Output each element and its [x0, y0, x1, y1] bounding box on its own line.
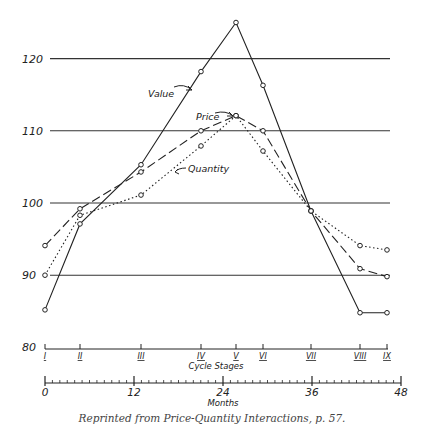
- data-point-price: [78, 206, 83, 211]
- y-label-120: 120: [22, 53, 43, 66]
- stage-label-III: III: [137, 352, 145, 361]
- data-point-value: [261, 83, 266, 88]
- cycle-stage-axis: IIIIIIIVVVIVIIVIIIIXCycle Stages: [44, 344, 392, 371]
- data-point-price: [199, 129, 204, 134]
- data-point-quantity: [139, 193, 144, 198]
- stage-label-IX: IX: [383, 352, 391, 361]
- data-point-price: [43, 243, 48, 248]
- stage-label-I: I: [44, 352, 47, 361]
- stage-label-VI: VI: [259, 352, 267, 361]
- data-point-quantity: [261, 149, 266, 154]
- price-quantity-value-chart: 8090100110120 IIIIIIIVVVIVIIVIIIIXCycle …: [0, 0, 424, 410]
- stage-label-V: V: [233, 352, 239, 361]
- y-label-100: 100: [22, 197, 43, 210]
- quantity-annotation: Quantity: [188, 163, 229, 174]
- figure-caption: Reprinted from Price-Quantity Interactio…: [0, 412, 424, 424]
- data-point-value: [234, 20, 239, 25]
- data-point-price: [385, 274, 390, 279]
- months-axis: 012243648Months: [42, 376, 408, 408]
- data-point-quantity: [358, 243, 363, 248]
- data-point-price: [358, 266, 363, 271]
- stage-label-II: II: [78, 352, 83, 361]
- month-label-12: 12: [127, 386, 141, 398]
- stage-label-VIII: VIII: [354, 352, 367, 361]
- data-point-value: [199, 69, 204, 74]
- data-point-quantity: [199, 144, 204, 149]
- data-point-quantity: [78, 213, 83, 218]
- y-label-90: 90: [22, 269, 36, 282]
- month-label-48: 48: [394, 386, 408, 398]
- data-point-quantity: [309, 209, 314, 214]
- series-line-quantity: [45, 116, 387, 276]
- series-line-price: [45, 116, 387, 277]
- stage-label-IV: IV: [197, 352, 205, 361]
- month-label-0: 0: [42, 386, 49, 398]
- data-point-quantity: [385, 248, 390, 253]
- month-label-24: 24: [216, 386, 229, 398]
- data-point-price: [139, 170, 144, 175]
- y-label-110: 110: [22, 125, 43, 138]
- stage-axis-title: Cycle Stages: [189, 361, 244, 371]
- data-point-quantity: [234, 113, 239, 118]
- data-point-value: [139, 162, 144, 167]
- stage-label-VII: VII: [306, 352, 317, 361]
- data-point-price: [261, 129, 266, 134]
- month-label-36: 36: [305, 386, 319, 398]
- data-point-quantity: [43, 273, 48, 278]
- data-point-value: [43, 308, 48, 313]
- data-point-value: [78, 222, 83, 227]
- y-axis-labels: 8090100110120: [22, 53, 43, 355]
- data-point-value: [385, 310, 390, 315]
- y-label-80: 80: [22, 341, 36, 354]
- months-axis-title: Months: [207, 398, 239, 408]
- data-point-value: [358, 310, 363, 315]
- value-annotation: Value: [148, 88, 174, 99]
